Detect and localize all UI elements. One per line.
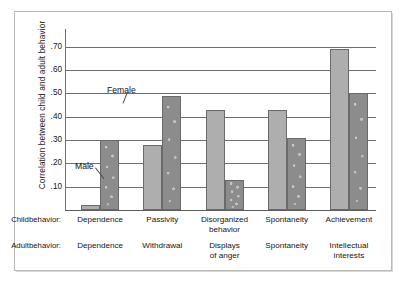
category-label-line1: Intellectual — [308, 241, 390, 251]
bar-female-4[interactable] — [349, 93, 368, 210]
y-tick-label: .10 — [51, 183, 62, 191]
bar-male-2[interactable] — [206, 110, 225, 210]
axis-row-key-line2: behavior: — [29, 215, 61, 224]
axis-row-key-line1: Child — [11, 215, 29, 224]
bar-female-3[interactable] — [287, 138, 306, 210]
y-axis-line — [65, 29, 66, 211]
bar-female-2[interactable] — [225, 180, 244, 210]
category-label-line2: interests — [308, 251, 390, 261]
bar-group — [268, 35, 306, 210]
bar-group — [330, 35, 368, 210]
axis-row-key: Adultbehavior: — [5, 241, 61, 250]
bar-male-1[interactable] — [143, 145, 162, 210]
series-label-male: Male — [75, 161, 94, 171]
category-label: Achievement — [308, 215, 390, 225]
bar-group — [143, 35, 181, 210]
category-axis-labels: Childbehavior:DependencePassivityDisorga… — [65, 215, 376, 273]
category-label-line1: Achievement — [308, 215, 390, 225]
y-tick-label: .30 — [51, 136, 62, 144]
y-tick-label: .60 — [51, 66, 62, 74]
y-tick-label: .70 — [51, 43, 62, 51]
category-label-line2: of anger — [184, 251, 266, 261]
category-label-line2: behavior — [184, 225, 266, 235]
bar-group — [81, 35, 119, 210]
bar-female-1[interactable] — [162, 96, 181, 210]
series-label-female: Female — [107, 85, 136, 95]
y-axis-title: Correlation between child and adult beha… — [37, 12, 47, 198]
category-label: Intellectualinterests — [308, 241, 390, 260]
bar-female-0[interactable] — [100, 140, 119, 210]
axis-row-key: Childbehavior: — [5, 215, 61, 224]
y-tick-label: .20 — [51, 159, 62, 167]
plot-area: .70.60.50.40.30.20.10 FemaleMale — [65, 36, 376, 211]
bar-male-3[interactable] — [268, 110, 287, 210]
y-tick-label: .40 — [51, 113, 62, 121]
figure-frame: Correlation between child and adult beha… — [14, 11, 392, 271]
axis-row-key-line2: behavior: — [29, 241, 61, 250]
axis-row-key-line1: Adult — [11, 241, 29, 250]
x-axis-baseline — [65, 210, 376, 211]
bar-group — [206, 35, 244, 210]
y-tick-label: .50 — [51, 89, 62, 97]
bar-male-4[interactable] — [330, 49, 349, 210]
